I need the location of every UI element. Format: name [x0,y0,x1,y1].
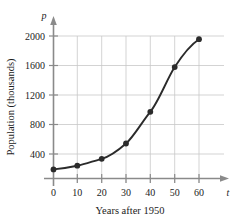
y-tick-label-800: 800 [30,119,45,130]
y-tick-label-2000: 2000 [25,31,45,42]
data-point-marker [74,163,80,169]
x-axis [44,175,229,182]
x-tick-label-60: 60 [194,187,204,198]
x-tick-labels: 0 10 20 30 40 50 60 [51,187,204,198]
data-point-marker [147,109,153,115]
data-point-marker [123,141,129,147]
y-axis-arrowhead-icon [50,16,57,25]
y-axis-title: Population (thousands) [5,58,17,156]
x-tick-label-30: 30 [121,187,131,198]
x-tick-label-50: 50 [170,187,180,198]
x-axis-title: Years after 1950 [96,205,165,216]
x-tick-label-0: 0 [51,187,56,198]
y-axis [50,16,57,186]
horizontal-gridlines [54,36,224,154]
y-tick-label-1200: 1200 [25,90,45,101]
x-tick-label-10: 10 [72,187,82,198]
x-axis-variable-label: t [227,187,230,198]
y-axis-variable-label: p [41,10,47,21]
chart-figure: 2000 1600 1200 800 400 0 10 20 30 40 50 … [0,0,241,224]
data-point-marker [196,36,202,42]
data-point-marker [172,64,178,70]
data-point-marker [99,156,105,162]
y-tick-labels: 2000 1600 1200 800 400 [25,31,45,160]
x-axis-arrowhead-icon [220,175,229,182]
y-tick-label-1600: 1600 [25,60,45,71]
x-tick-label-20: 20 [97,187,107,198]
y-tick-label-400: 400 [30,149,45,160]
data-point-marker [51,167,57,173]
population-growth-chart: 2000 1600 1200 800 400 0 10 20 30 40 50 … [0,0,241,224]
x-tick-label-40: 40 [145,187,155,198]
